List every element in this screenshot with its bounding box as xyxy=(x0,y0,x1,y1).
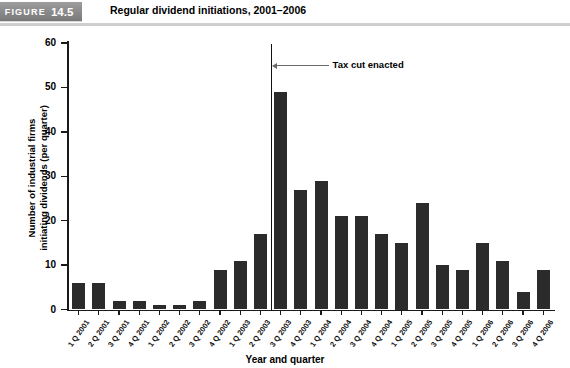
annotation-label: Tax cut enacted xyxy=(333,59,404,70)
y-tick-30 xyxy=(61,176,68,178)
x-tick xyxy=(159,310,160,315)
x-tick xyxy=(421,310,422,315)
figure-page: FIGURE 14.5 Regular dividend initiations… xyxy=(0,0,570,368)
x-tick xyxy=(381,310,382,315)
x-tick xyxy=(341,310,342,315)
bar xyxy=(72,283,85,310)
figure-header: FIGURE 14.5 Regular dividend initiations… xyxy=(0,0,570,26)
y-tick-label-20: 20 xyxy=(30,215,56,226)
bar xyxy=(375,234,388,310)
x-tick xyxy=(78,310,79,315)
x-tick xyxy=(260,310,261,315)
y-tick-label-30: 30 xyxy=(30,170,56,181)
bar xyxy=(153,305,166,309)
bar xyxy=(517,292,530,310)
x-tick xyxy=(240,310,241,315)
y-tick-label-0: 0 xyxy=(30,304,56,315)
tax-cut-event-line xyxy=(271,44,273,310)
bar xyxy=(193,301,206,310)
bar xyxy=(395,243,408,310)
annotation-arrow-icon xyxy=(273,65,329,66)
bar xyxy=(214,270,227,310)
y-tick-0 xyxy=(61,309,68,311)
bar xyxy=(274,92,287,310)
x-tick xyxy=(320,310,321,315)
bar xyxy=(173,305,186,309)
x-tick xyxy=(502,310,503,315)
x-tick xyxy=(522,310,523,315)
x-axis-title: Year and quarter xyxy=(0,354,570,365)
figure-number-banner: FIGURE 14.5 xyxy=(0,2,82,21)
x-tick xyxy=(280,310,281,315)
y-tick-60 xyxy=(61,42,68,44)
bar xyxy=(254,234,267,310)
y-tick-label-10: 10 xyxy=(30,259,56,270)
x-tick xyxy=(543,310,544,315)
x-tick xyxy=(179,310,180,315)
x-tick xyxy=(98,310,99,315)
bar xyxy=(113,301,126,310)
x-tick xyxy=(361,310,362,315)
x-tick xyxy=(300,310,301,315)
bar xyxy=(335,216,348,309)
bar xyxy=(315,181,328,310)
bar xyxy=(496,261,509,310)
bar xyxy=(92,283,105,310)
x-tick xyxy=(118,310,119,315)
y-tick-50 xyxy=(61,87,68,89)
x-tick xyxy=(401,310,402,315)
y-tick-label-40: 40 xyxy=(30,126,56,137)
bar xyxy=(456,270,469,310)
plot-region: Number of industrial firms initiating di… xyxy=(0,26,570,368)
y-tick-40 xyxy=(61,131,68,133)
y-tick-10 xyxy=(61,264,68,266)
bar xyxy=(294,190,307,310)
bar xyxy=(133,301,146,310)
bar xyxy=(234,261,247,310)
bar xyxy=(476,243,489,310)
bar xyxy=(537,270,550,310)
figure-label: FIGURE xyxy=(5,7,46,17)
y-tick-label-60: 60 xyxy=(30,37,56,48)
figure-title: Regular dividend initiations, 2001–2006 xyxy=(110,4,306,16)
bar xyxy=(436,265,449,309)
chart-area: Number of industrial firms initiating di… xyxy=(0,26,570,368)
x-tick xyxy=(482,310,483,315)
bar xyxy=(416,203,429,310)
y-tick-label-50: 50 xyxy=(30,81,56,92)
x-tick xyxy=(462,310,463,315)
x-tick xyxy=(199,310,200,315)
x-tick xyxy=(219,310,220,315)
figure-number: 14.5 xyxy=(51,6,73,18)
x-tick xyxy=(139,310,140,315)
x-tick xyxy=(442,310,443,315)
bar xyxy=(355,216,368,309)
y-tick-20 xyxy=(61,220,68,222)
